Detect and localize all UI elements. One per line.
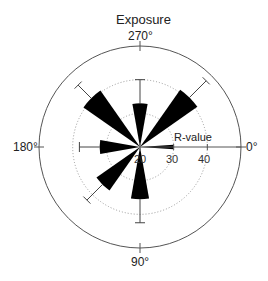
angle-label-180: 180° — [13, 140, 38, 154]
angle-label-270: 270° — [128, 29, 153, 43]
angle-label-0: 0° — [246, 140, 257, 154]
angle-label-90: 90° — [131, 255, 149, 269]
error-bar-315 — [190, 81, 207, 98]
radial-tick-20: 20 — [134, 153, 146, 165]
radial-tick-30: 30 — [166, 153, 178, 165]
radial-axis-label: R-value — [174, 131, 212, 143]
radial-tick-40: 40 — [198, 153, 210, 165]
bars — [75, 77, 210, 222]
wedge-225 — [83, 90, 140, 147]
error-bar-225 — [78, 85, 91, 98]
error-bar-135 — [87, 185, 102, 200]
chart-title: Exposure — [116, 12, 171, 27]
